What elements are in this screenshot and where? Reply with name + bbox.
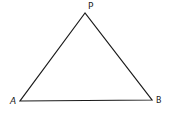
- triangle-diagram: [0, 0, 169, 116]
- triangle-pab: [20, 13, 152, 101]
- vertex-label-b: B: [156, 97, 162, 105]
- vertex-label-a: A: [10, 97, 16, 106]
- vertex-label-p: P: [88, 2, 93, 11]
